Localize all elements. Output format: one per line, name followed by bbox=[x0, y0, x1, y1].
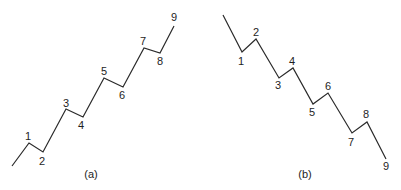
wave-line-b bbox=[223, 15, 386, 159]
wave-label-b-8: 8 bbox=[363, 108, 369, 120]
wave-label-b-4: 4 bbox=[289, 55, 295, 67]
wave-label-b-1: 1 bbox=[238, 55, 244, 67]
caption-b: (b) bbox=[298, 168, 311, 180]
wave-label-b-5: 5 bbox=[309, 106, 315, 118]
wave-label-b-7: 7 bbox=[348, 136, 354, 148]
wave-label-a-4: 4 bbox=[78, 119, 84, 131]
wave-label-a-1: 1 bbox=[25, 130, 31, 142]
wave-label-a-6: 6 bbox=[119, 89, 125, 101]
wave-label-b-2: 2 bbox=[253, 26, 259, 38]
wave-line-a bbox=[12, 26, 174, 166]
wave-label-a-3: 3 bbox=[63, 97, 69, 109]
wave-label-a-8: 8 bbox=[157, 55, 163, 67]
panel-a-uptrend-wave: 123456789 (a) bbox=[12, 11, 177, 180]
wave-label-b-3: 3 bbox=[275, 79, 281, 91]
wave-diagram: 123456789 (a) 123456789 (b) bbox=[0, 0, 401, 190]
wave-label-a-7: 7 bbox=[140, 35, 146, 47]
wave-label-b-9: 9 bbox=[383, 160, 389, 172]
caption-a: (a) bbox=[84, 168, 97, 180]
wave-label-a-9: 9 bbox=[171, 11, 177, 23]
panel-b-downtrend-wave: 123456789 (b) bbox=[223, 15, 389, 180]
wave-label-b-6: 6 bbox=[325, 80, 331, 92]
wave-label-a-2: 2 bbox=[39, 155, 45, 167]
wave-label-a-5: 5 bbox=[101, 65, 107, 77]
